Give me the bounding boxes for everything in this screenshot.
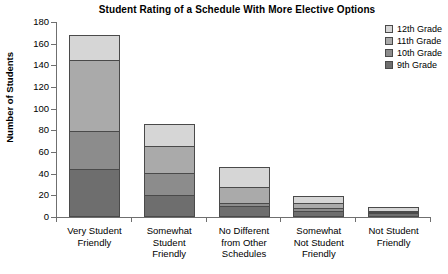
bar-segment bbox=[145, 125, 194, 147]
bar-stack bbox=[144, 124, 195, 217]
y-tick-label: 80 bbox=[38, 126, 49, 136]
x-category-label-line: Somewhat bbox=[281, 225, 356, 237]
bars-container bbox=[57, 22, 431, 217]
y-tick-mark bbox=[51, 44, 56, 45]
y-tick-label: 140 bbox=[33, 61, 49, 71]
legend-swatch-icon bbox=[385, 37, 393, 45]
bar-segment bbox=[70, 132, 119, 170]
y-axis-title-label: Number of Students bbox=[4, 52, 15, 143]
x-category-label: SomewhatStudentFriendly bbox=[132, 225, 207, 260]
chart-legend: 12th Grade11th Grade10th Grade9th Grade bbox=[385, 24, 442, 70]
bar-segment bbox=[294, 197, 343, 204]
y-tick-mark bbox=[51, 109, 56, 110]
x-category-label-line: Very Student bbox=[57, 225, 132, 237]
x-category-label: SomewhatNot StudentFriendly bbox=[281, 225, 356, 260]
x-tick-mark bbox=[206, 217, 207, 222]
y-tick-mark bbox=[51, 87, 56, 88]
x-category-label-line: Friendly bbox=[281, 248, 356, 260]
x-category-label-line: Friendly bbox=[132, 248, 207, 260]
y-tick-label: 160 bbox=[33, 39, 49, 49]
x-category-label-line: from Other bbox=[207, 237, 282, 249]
bar-stack bbox=[293, 196, 344, 217]
y-tick-label: 100 bbox=[33, 104, 49, 114]
bar-segment bbox=[369, 214, 418, 216]
x-category-label-line: No Different bbox=[207, 225, 282, 237]
y-tick-label: 120 bbox=[33, 82, 49, 92]
bar-stack bbox=[69, 35, 120, 217]
bar-segment bbox=[220, 188, 269, 204]
legend-item-label: 10th Grade bbox=[397, 48, 442, 58]
bar-segment bbox=[145, 196, 194, 216]
x-category-label: No Differentfrom OtherSchedules bbox=[207, 225, 282, 260]
y-tick-label: 60 bbox=[38, 147, 49, 157]
y-tick-mark bbox=[51, 195, 56, 196]
x-category-label-line: Student bbox=[132, 237, 207, 249]
x-category-label: Not StudentFriendly bbox=[356, 225, 431, 248]
x-axis-line bbox=[56, 217, 431, 218]
y-tick-mark bbox=[51, 22, 56, 23]
bar-stack bbox=[219, 167, 270, 217]
x-category-label-line: Friendly bbox=[57, 237, 132, 249]
x-category-label-line: Schedules bbox=[207, 248, 282, 260]
y-tick-mark bbox=[51, 65, 56, 66]
bar-stack bbox=[368, 207, 419, 217]
x-category-label-line: Friendly bbox=[356, 237, 431, 249]
y-tick-label: 180 bbox=[33, 17, 49, 27]
legend-item[interactable]: 12th Grade bbox=[385, 24, 442, 34]
legend-swatch-icon bbox=[385, 61, 393, 69]
y-tick-mark bbox=[51, 174, 56, 175]
y-axis-title: Number of Students bbox=[2, 0, 16, 195]
x-tick-mark bbox=[430, 217, 431, 222]
legend-item[interactable]: 11th Grade bbox=[385, 36, 442, 46]
legend-item-label: 12th Grade bbox=[397, 24, 442, 34]
x-category-label: Very StudentFriendly bbox=[57, 225, 132, 248]
plot-area: 020406080100120140160180 bbox=[56, 22, 430, 217]
legend-item-label: 9th Grade bbox=[397, 60, 437, 70]
x-tick-mark bbox=[280, 217, 281, 222]
x-tick-mark bbox=[56, 217, 57, 222]
legend-swatch-icon bbox=[385, 25, 393, 33]
bar-segment bbox=[145, 174, 194, 196]
x-tick-mark bbox=[355, 217, 356, 222]
legend-item[interactable]: 10th Grade bbox=[385, 48, 442, 58]
bar-segment bbox=[145, 147, 194, 173]
y-tick-mark bbox=[51, 130, 56, 131]
x-category-label-line: Not Student bbox=[356, 225, 431, 237]
x-tick-mark bbox=[131, 217, 132, 222]
bar-segment bbox=[220, 207, 269, 216]
chart-title: Student Rating of a Schedule With More E… bbox=[0, 4, 448, 15]
x-category-label-line: Not Student bbox=[281, 237, 356, 249]
bar-segment bbox=[70, 61, 119, 133]
y-tick-label: 0 bbox=[44, 212, 49, 222]
bar-segment bbox=[220, 168, 269, 188]
legend-swatch-icon bbox=[385, 49, 393, 57]
y-tick-label: 20 bbox=[38, 191, 49, 201]
stacked-bar-chart: Student Rating of a Schedule With More E… bbox=[0, 0, 448, 274]
bar-segment bbox=[70, 170, 119, 216]
y-tick-mark bbox=[51, 152, 56, 153]
legend-item[interactable]: 9th Grade bbox=[385, 60, 442, 70]
bar-segment bbox=[70, 36, 119, 61]
x-category-label-line: Somewhat bbox=[132, 225, 207, 237]
x-axis-category-labels: Very StudentFriendlySomewhatStudentFrien… bbox=[57, 225, 431, 273]
bar-segment bbox=[294, 212, 343, 216]
y-tick-label: 40 bbox=[38, 169, 49, 179]
legend-item-label: 11th Grade bbox=[397, 36, 441, 46]
